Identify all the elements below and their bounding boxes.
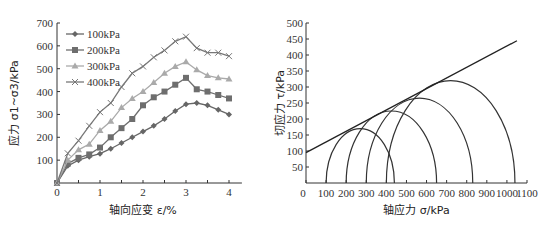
legend-label: 100kPa: [87, 28, 120, 40]
x-tick-label: 400: [378, 187, 395, 199]
x-tick-label: 2: [140, 186, 146, 198]
y-tick-label: 150: [287, 129, 304, 141]
y-tick-label: 450: [287, 33, 304, 45]
x-tick-label: 100: [318, 187, 335, 199]
x-tick-label: 600: [418, 187, 435, 199]
x-tick-label: 1000: [496, 187, 519, 199]
x-axis-title: 轴应力 σ/kPa: [383, 203, 449, 217]
y-tick-label: 200: [287, 113, 304, 125]
series-400kPa: [54, 34, 232, 186]
y-tick-label: 50: [292, 161, 304, 173]
x-tick-label: 0: [300, 187, 306, 199]
y-tick-label: 300: [287, 81, 304, 93]
y-tick-label: 700: [37, 17, 54, 29]
x-tick-label: 800: [458, 187, 475, 199]
y-tick-label: 400: [37, 86, 54, 98]
legend-label: 200kPa: [87, 44, 120, 56]
legend-label: 400kPa: [87, 76, 120, 88]
y-tick-label: 500: [287, 17, 304, 29]
y-tick-label: 300: [37, 108, 54, 120]
stress-strain-chart: 10020030040050060070001234轴向应变 ε/%应力 σ1~…: [0, 0, 280, 228]
failure-envelope: [306, 41, 517, 153]
mohr-circle: [386, 81, 515, 183]
x-tick-label: 200: [338, 187, 355, 199]
x-tick-label: 0: [54, 186, 60, 198]
x-tick-label: 1100: [516, 187, 538, 199]
x-tick-label: 500: [398, 187, 415, 199]
x-tick-label: 300: [358, 187, 375, 199]
mohr-circle: [346, 111, 436, 183]
y-tick-label: 350: [287, 65, 304, 77]
x-axis-title: 轴向应变 ε/%: [109, 203, 177, 217]
x-tick-label: 700: [438, 187, 455, 199]
y-tick-label: 200: [37, 131, 54, 143]
y-tick-label: 500: [37, 63, 54, 75]
y-tick-label: 600: [37, 40, 54, 52]
y-tick-label: 100: [287, 145, 304, 157]
x-tick-label: 3: [183, 186, 189, 198]
left-axes: 10020030040050060070001234轴向应变 ε/%应力 σ1~…: [7, 17, 242, 217]
x-tick-label: 1: [97, 186, 103, 198]
mohr-circle: [326, 129, 394, 183]
series-300kPa: [54, 58, 233, 185]
y-tick-label: 100: [37, 154, 54, 166]
mohr-circle: [366, 98, 472, 183]
right-axes: 5010015020025030035040045050001002003004…: [273, 17, 538, 217]
y-axis-title: 应力 σ1~σ3/kPa: [7, 60, 21, 146]
x-tick-label: 4: [226, 186, 232, 198]
legend-label: 300kPa: [87, 60, 120, 72]
y-tick-label: 400: [287, 49, 304, 61]
y-tick-label: 250: [287, 97, 304, 109]
legend: 100kPa200kPa300kPa400kPa: [66, 28, 120, 88]
x-tick-label: 900: [479, 187, 496, 199]
